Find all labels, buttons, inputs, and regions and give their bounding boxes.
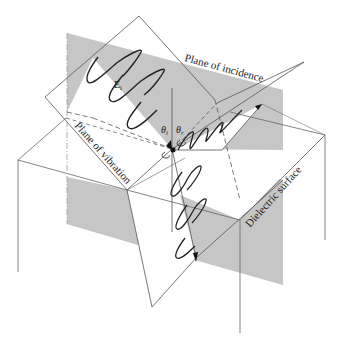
reflection-diagram: Plane of incidence Plane of vibration Di…	[0, 0, 341, 343]
diagram-canvas: Plane of incidence Plane of vibration Di…	[0, 0, 341, 343]
incidence-point	[171, 148, 176, 153]
